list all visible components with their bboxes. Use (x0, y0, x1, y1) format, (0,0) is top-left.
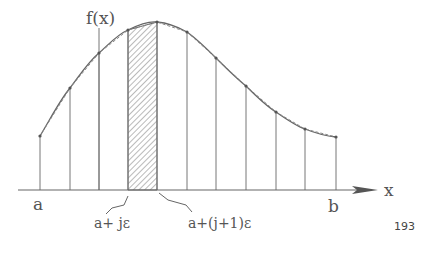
strip-right-label: a+(j+1)ε (188, 215, 251, 231)
ordinate-lines (40, 22, 336, 190)
function-curve (40, 22, 336, 137)
page-number: 193 (394, 220, 415, 233)
strip-left-label: a+ jε (94, 215, 130, 231)
hatched-strip (128, 22, 157, 190)
strip-left-leader (106, 196, 128, 214)
riemann-sum-diagram: f(x) x a b a+ jε a+(j+1)ε 193 (0, 0, 437, 256)
sample-points (38, 20, 337, 138)
right-bound-label: b (328, 196, 339, 216)
y-axis-label: f(x) (86, 8, 115, 28)
piecewise-linear-approximation (40, 22, 336, 137)
x-axis-label: x (384, 180, 394, 200)
left-bound-label: a (33, 194, 43, 214)
strip-right-leader (159, 193, 192, 212)
